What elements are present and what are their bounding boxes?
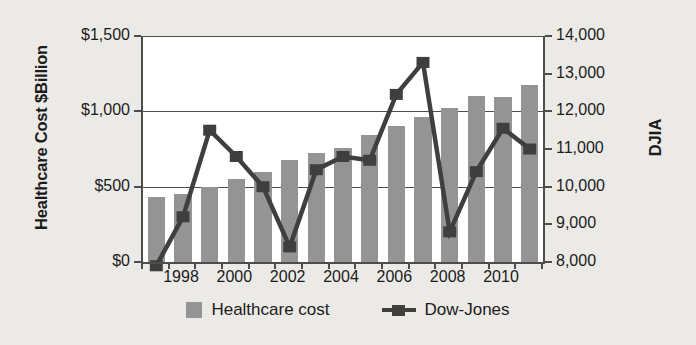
line-marker xyxy=(257,181,270,192)
y-axis-left-tick-label: $1,000 xyxy=(40,101,130,119)
chart-container: Healthcare Cost $Billion DJIA $0$500$1,0… xyxy=(0,0,696,345)
x-axis-tick-label: 2010 xyxy=(471,268,531,286)
y-axis-left-tick xyxy=(134,186,141,188)
line-marker xyxy=(283,241,296,252)
x-axis-tick-label: 2000 xyxy=(204,268,264,286)
x-axis-tick xyxy=(141,262,143,269)
line-marker xyxy=(390,89,403,100)
plot-area xyxy=(141,36,545,262)
y-axis-left-tick-label: $0 xyxy=(40,252,130,270)
line-marker xyxy=(523,144,536,155)
line-marker xyxy=(177,211,190,222)
y-axis-right-tick xyxy=(545,186,552,188)
chart-legend: Healthcare cost Dow-Jones xyxy=(0,300,696,320)
line-marker-swatch-icon xyxy=(382,302,416,318)
y-axis-right-tick-label: 8,000 xyxy=(556,252,596,270)
y-axis-right-tick-label: 13,000 xyxy=(556,64,605,82)
x-axis-tick-label: 2006 xyxy=(364,268,424,286)
line-marker xyxy=(230,151,243,162)
legend-label-healthcare-cost: Healthcare cost xyxy=(211,300,329,320)
y-axis-left-tick-label: $500 xyxy=(40,177,130,195)
y-axis-right-tick xyxy=(545,148,552,150)
line-marker xyxy=(310,164,323,175)
line-marker xyxy=(443,226,456,237)
y-axis-right-tick-label: 12,000 xyxy=(556,101,605,119)
x-axis-line xyxy=(141,262,545,264)
legend-item-dow-jones[interactable]: Dow-Jones xyxy=(382,300,510,320)
line-marker xyxy=(497,123,510,134)
y-axis-right-tick xyxy=(545,110,552,112)
y-axis-right-tick xyxy=(545,35,552,37)
line-marker xyxy=(363,155,376,166)
line-series-dow-jones xyxy=(143,36,543,262)
y-axis-right-tick-label: 14,000 xyxy=(556,26,605,44)
y-axis-right-tick-label: 11,000 xyxy=(556,139,604,157)
y-axis-left-title: Healthcare Cost $Billion xyxy=(32,13,51,263)
x-axis-tick xyxy=(541,262,543,269)
y-axis-right-tick xyxy=(545,223,552,225)
y-axis-left-tick xyxy=(134,35,141,37)
y-axis-left-tick-label: $1,500 xyxy=(40,26,130,44)
y-axis-right-tick xyxy=(545,261,552,263)
line-marker xyxy=(337,151,350,162)
y-axis-left-tick xyxy=(134,110,141,112)
y-axis-left-tick xyxy=(134,261,141,263)
line-marker xyxy=(470,166,483,177)
x-axis-tick-label: 2004 xyxy=(311,268,371,286)
bar-swatch-icon xyxy=(186,302,202,318)
y-axis-right-tick xyxy=(545,73,552,75)
y-axis-right-tick-label: 9,000 xyxy=(556,214,596,232)
y-axis-right-title: DJIA xyxy=(646,63,665,213)
x-axis-tick-label: 2002 xyxy=(258,268,318,286)
line-path xyxy=(156,62,529,265)
legend-label-dow-jones: Dow-Jones xyxy=(425,300,510,320)
y-axis-right-tick-label: 10,000 xyxy=(556,177,605,195)
line-marker xyxy=(417,57,430,68)
legend-item-healthcare-cost[interactable]: Healthcare cost xyxy=(186,300,329,320)
line-marker xyxy=(203,125,216,136)
x-axis-tick-label: 2008 xyxy=(418,268,478,286)
x-axis-tick-label: 1998 xyxy=(151,268,211,286)
